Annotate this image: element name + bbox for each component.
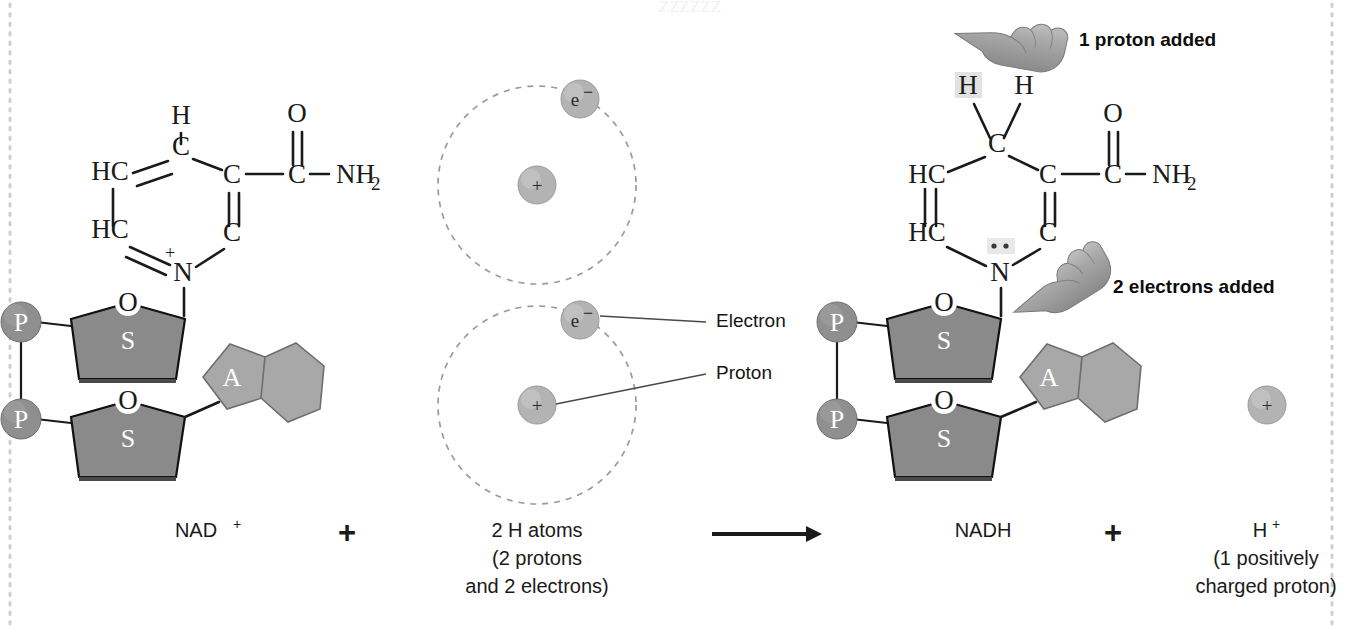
svg-text:(2 protons: (2 protons — [492, 547, 582, 569]
reaction-arrow — [712, 526, 822, 542]
equation-row: NAD + + 2 H atoms (2 protons and 2 elect… — [0, 0, 1361, 627]
svg-text:and 2 electrons): and 2 electrons) — [465, 575, 608, 597]
svg-text:+: + — [233, 516, 241, 532]
svg-text:NAD: NAD — [175, 519, 217, 541]
equation-term-h-plus: H + (1 positively charged proton) — [1195, 516, 1336, 597]
svg-text:H: H — [1253, 519, 1267, 541]
equation-term-nad: NAD + — [175, 516, 241, 541]
svg-text:charged proton): charged proton) — [1195, 575, 1336, 597]
equation-term-h-atoms: 2 H atoms (2 protons and 2 electrons) — [465, 519, 608, 597]
equation-operator-plus-2: + — [1104, 515, 1122, 550]
svg-text:2 H atoms: 2 H atoms — [491, 519, 582, 541]
svg-text:(1 positively: (1 positively — [1213, 547, 1319, 569]
equation-term-nadh: NADH — [955, 519, 1012, 541]
svg-text:+: + — [1272, 516, 1280, 532]
diagram-canvas: ZZZZZZ C HC HC N C C + H C O — [0, 0, 1361, 627]
equation-operator-plus-1: + — [338, 515, 356, 550]
